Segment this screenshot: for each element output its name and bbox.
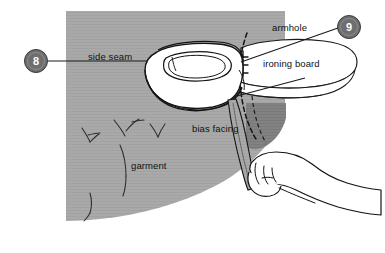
garment-fold-dark	[246, 103, 286, 149]
badge-8-label: 8	[33, 56, 39, 67]
label-armhole: armhole	[272, 23, 307, 33]
illustration-figure: side seam armhole ironing board bias fac…	[0, 0, 385, 253]
badge-9-label: 9	[346, 22, 352, 33]
label-garment: garment	[131, 161, 167, 171]
label-side-seam: side seam	[88, 52, 132, 62]
label-ironing-board: ironing board	[263, 59, 320, 69]
badge-8: 8	[24, 49, 48, 73]
badge-9: 9	[337, 15, 361, 39]
label-bias-facing: bias facing	[192, 124, 239, 134]
